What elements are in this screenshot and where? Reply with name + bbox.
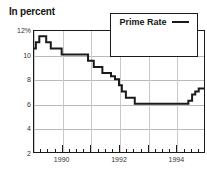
legend-line-swatch	[172, 21, 189, 23]
y-tick-label-10: 10	[23, 51, 31, 58]
x-axis-labels: 199019921994	[33, 156, 205, 170]
y-tick-label-8: 8	[27, 76, 31, 83]
prime-rate-chart: In percent 24681012% 199019921994 Prime …	[0, 0, 207, 181]
x-tick-label-1994: 1994	[169, 156, 185, 163]
legend: Prime Rate	[110, 13, 198, 57]
legend-label-prime-rate: Prime Rate	[119, 17, 166, 27]
y-tick-label-4: 4	[27, 125, 31, 132]
chart-title: In percent	[9, 6, 55, 17]
y-axis-labels: 24681012%	[0, 30, 31, 153]
x-tick-label-1992: 1992	[111, 156, 127, 163]
y-tick-label-6: 6	[27, 100, 31, 107]
y-tick-label-2: 2	[27, 150, 31, 157]
x-tick-label-1990: 1990	[54, 156, 70, 163]
y-tick-label-12: 12%	[17, 27, 31, 34]
legend-entry-prime-rate: Prime Rate	[111, 17, 197, 27]
